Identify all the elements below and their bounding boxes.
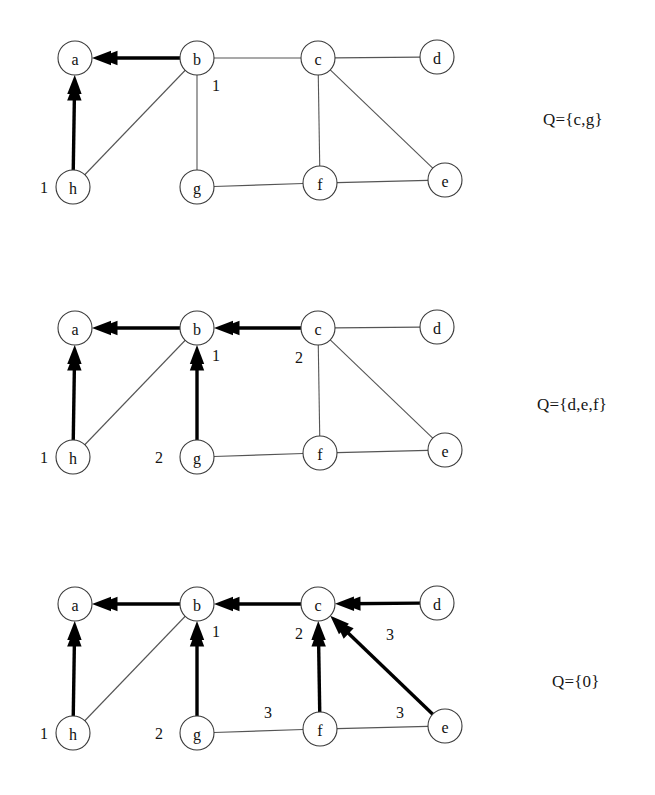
tree-arrow-g-to-b: [190, 621, 204, 716]
edge-weight-label: 1: [40, 725, 48, 742]
node-label: f: [317, 176, 323, 193]
tree-arrow-d-to-c: [335, 596, 420, 610]
node-label: h: [69, 450, 77, 467]
queue-label-3: Q={0}: [552, 672, 600, 692]
graph-edge-f-e: [337, 726, 428, 728]
graph-edge-c-f: [318, 345, 319, 436]
edge-weight-label: 3: [396, 704, 404, 721]
graph-edge-c-e: [330, 340, 432, 438]
edge-weight-label: 1: [212, 623, 220, 640]
graph-node-g: g: [180, 170, 214, 204]
graph-canvas: abcdefgh1122333: [0, 546, 655, 795]
tree-arrow-h-to-a: [67, 621, 81, 716]
graph-node-f: f: [303, 436, 337, 470]
node-label: d: [433, 50, 441, 67]
node-label: h: [69, 180, 77, 197]
queue-label-2: Q={d,e,f}: [537, 395, 607, 415]
graph-node-c: c: [301, 41, 335, 75]
graph-node-a: a: [58, 41, 92, 75]
node-label: c: [314, 321, 321, 338]
graph-node-d: d: [420, 586, 454, 620]
graph-node-e: e: [428, 709, 462, 743]
graph-node-d: d: [420, 40, 454, 74]
edge-weight-label: 2: [295, 349, 303, 366]
tree-arrow-b-to-a: [92, 321, 180, 335]
graph-edge-c-d: [335, 57, 420, 58]
edge-weight-label: 1: [40, 179, 48, 196]
node-label: e: [441, 443, 448, 460]
graph-node-d: d: [420, 310, 454, 344]
graph-node-b: b: [180, 311, 214, 345]
graph-node-f: f: [303, 712, 337, 746]
graph-node-c: c: [301, 587, 335, 621]
node-label: b: [193, 597, 201, 614]
graph-node-f: f: [303, 166, 337, 200]
node-label: g: [193, 450, 201, 468]
tree-arrow-e-to-c: [330, 616, 432, 714]
graph-edge-b-h: [85, 616, 185, 720]
node-label: c: [314, 51, 321, 68]
graph-node-e: e: [428, 433, 462, 467]
edge-weight-label: 3: [386, 626, 394, 643]
graph-node-h: h: [56, 716, 90, 750]
graph-node-a: a: [58, 587, 92, 621]
node-label: a: [71, 597, 78, 614]
node-label: f: [317, 722, 323, 739]
graph-node-b: b: [180, 41, 214, 75]
tree-arrow-h-to-a: [67, 75, 81, 170]
edge-weight-label: 2: [155, 725, 163, 742]
tree-arrow-h-to-a: [67, 345, 81, 440]
graph-edge-g-f: [214, 454, 303, 457]
tree-arrow-b-to-a: [92, 597, 180, 611]
graph-node-a: a: [58, 311, 92, 345]
edge-weight-label: 1: [212, 347, 220, 364]
tree-arrow-c-to-b: [214, 321, 301, 335]
edge-weight-label: 1: [212, 77, 220, 94]
graph-edge-g-f: [214, 730, 303, 733]
graph-node-b: b: [180, 587, 214, 621]
node-label: f: [317, 446, 323, 463]
graph-node-h: h: [56, 440, 90, 474]
node-label: g: [193, 180, 201, 198]
tree-arrow-b-to-a: [92, 51, 180, 65]
figure-page: abcdefgh11 Q={c,g} abcdefgh1122 Q={d,e,f…: [0, 0, 655, 795]
node-label: g: [193, 726, 201, 744]
tree-arrow-g-to-b: [190, 345, 204, 440]
graph-node-c: c: [301, 311, 335, 345]
graph-edge-b-h: [85, 340, 185, 444]
edge-weight-label: 3: [264, 704, 272, 721]
graph-edge-f-e: [337, 450, 428, 452]
graph-edge-f-e: [337, 180, 428, 182]
graph-node-h: h: [56, 170, 90, 204]
node-label: d: [433, 596, 441, 613]
edge-weight-label: 2: [155, 449, 163, 466]
graph-node-g: g: [180, 440, 214, 474]
graph-edge-c-d: [335, 327, 420, 328]
node-label: d: [433, 320, 441, 337]
node-label: a: [71, 51, 78, 68]
node-label: b: [193, 321, 201, 338]
graph-edge-c-e: [330, 70, 432, 168]
graph-node-e: e: [428, 163, 462, 197]
graph-panel-3: abcdefgh1122333: [0, 546, 655, 795]
node-label: e: [441, 719, 448, 736]
queue-label-1: Q={c,g}: [543, 110, 603, 130]
tree-arrow-c-to-b: [214, 597, 301, 611]
tree-arrow-f-to-c: [311, 621, 326, 712]
edge-weight-label: 2: [295, 625, 303, 642]
node-label: e: [441, 173, 448, 190]
graph-edge-b-h: [85, 70, 185, 174]
node-label: c: [314, 597, 321, 614]
graph-node-g: g: [180, 716, 214, 750]
edge-weight-label: 1: [40, 449, 48, 466]
graph-edge-c-f: [318, 75, 319, 166]
node-label: b: [193, 51, 201, 68]
node-label: a: [71, 321, 78, 338]
graph-edge-g-f: [214, 184, 303, 187]
node-label: h: [69, 726, 77, 743]
